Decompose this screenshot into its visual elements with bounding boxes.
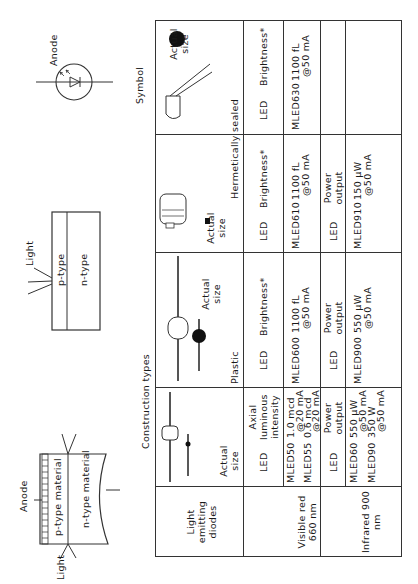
part-number: MLED900 xyxy=(352,337,363,384)
part-number: MLED55 xyxy=(302,442,313,483)
group-plastic-label: Plastic xyxy=(229,351,240,384)
col-metric-label: Power output xyxy=(322,298,344,338)
col-led-label: LED xyxy=(258,100,269,120)
col-led-label: LED xyxy=(328,350,339,370)
actual-size-label: Actual size xyxy=(168,24,190,64)
row-label-infrared: Infrared 900 nm xyxy=(360,490,382,554)
col-metric-label: Power output xyxy=(322,398,344,438)
col-metric-label: Brightness* xyxy=(258,27,269,86)
part-number: MLED910 xyxy=(352,202,363,249)
row-label-visible-red: Visible red 660 nm xyxy=(296,490,318,554)
part-number: MLED630 xyxy=(290,83,301,130)
part-number: MLED600 xyxy=(290,337,301,384)
group-hermetic-label: Hermetically sealed xyxy=(229,99,240,199)
col-led-label: LED xyxy=(328,452,339,472)
part-condition: @50 mA xyxy=(375,390,386,432)
part-condition: @50 mA xyxy=(300,287,311,329)
part-number: MLED60 xyxy=(348,442,359,483)
actual-size-label: Actual size xyxy=(205,208,227,248)
part-condition: @50 mA xyxy=(300,154,311,196)
part-number: MLED610 xyxy=(290,202,301,249)
col-led-label: LED xyxy=(328,221,339,241)
actual-size-label: Actual size xyxy=(218,441,240,481)
col-metric-label: Brightness* xyxy=(258,277,269,336)
part-number: MLED90 xyxy=(366,442,377,483)
actual-size-label: Actual size xyxy=(200,274,222,314)
col-led-label: LED xyxy=(258,221,269,241)
part-number: MLED50 xyxy=(285,442,296,483)
part-condition: @50 mA xyxy=(300,35,311,77)
col-led-label: LED xyxy=(258,350,269,370)
col-metric-label: Axial luminous intensity xyxy=(247,390,280,444)
col-led-label: LED xyxy=(258,452,269,472)
part-condition: @50 mA xyxy=(362,154,373,196)
part-condition: @50 mA xyxy=(362,287,373,329)
rotated-page: Anode p-type material n-type material Li… xyxy=(0,0,418,584)
col-metric-label: Power output xyxy=(322,168,344,208)
col-metric-label: Brightness* xyxy=(258,149,269,208)
part-condition: @20 mA xyxy=(310,390,321,432)
